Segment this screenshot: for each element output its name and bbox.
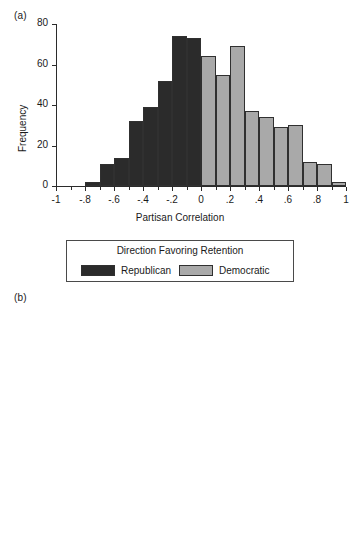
panel-a-x-tick: [317, 187, 318, 191]
panel-a-x-tick-label: .6: [273, 194, 303, 205]
histogram-bar: [129, 121, 144, 186]
panel-a-x-tick-label: -1: [41, 194, 71, 205]
legend-swatch-democratic: [179, 265, 213, 276]
panel-a-x-tick-label: 0: [186, 194, 216, 205]
panel-a-y-tick-label: 60: [20, 58, 48, 69]
panel-a: (a) Frequency 020406080-1-.8-.6-.4-.20.2…: [0, 0, 360, 236]
figure-root: (a) Frequency 020406080-1-.8-.6-.4-.20.2…: [0, 0, 360, 549]
histogram-bar: [216, 75, 231, 186]
panel-a-x-tick-label: -.4: [128, 194, 158, 205]
panel-a-y-axis-line: [56, 24, 57, 186]
panel-a-x-minor-tick: [129, 187, 130, 190]
panel-a-x-tick-label: .8: [302, 194, 332, 205]
panel-a-plot-area: 020406080-1-.8-.6-.4-.20.2.4.6.81: [56, 24, 346, 186]
histogram-bar: [274, 127, 289, 186]
panel-a-y-tick: [52, 105, 56, 106]
panel-a-x-tick: [259, 187, 260, 191]
panel-a-x-tick-label: .2: [215, 194, 245, 205]
panel-a-x-tick: [143, 187, 144, 191]
panel-a-x-tick: [201, 187, 202, 191]
histogram-bar: [201, 56, 216, 186]
histogram-bar: [100, 164, 115, 186]
panel-a-y-tick-label: 0: [20, 179, 48, 190]
panel-a-x-tick-label: -.8: [70, 194, 100, 205]
panel-a-x-tick: [85, 187, 86, 191]
panel-a-x-tick: [288, 187, 289, 191]
histogram-bar: [332, 182, 347, 186]
panel-b-tag: (b): [14, 292, 27, 303]
panel-a-x-tick: [114, 187, 115, 191]
histogram-bar: [172, 36, 187, 186]
panel-a-y-tick-label: 40: [20, 98, 48, 109]
panel-a-x-tick: [56, 187, 57, 191]
panel-a-x-tick-label: -.2: [157, 194, 187, 205]
histogram-bar: [114, 158, 129, 186]
histogram-bar: [245, 111, 260, 186]
histogram-bar: [303, 162, 318, 186]
histogram-bar: [85, 182, 100, 186]
panel-a-y-tick-label: 20: [20, 139, 48, 150]
panel-a-y-tick: [52, 24, 56, 25]
panel-a-x-tick: [346, 187, 347, 191]
panel-a-x-minor-tick: [274, 187, 275, 190]
panel-a-x-tick-label: -.6: [99, 194, 129, 205]
panel-a-x-minor-tick: [71, 187, 72, 190]
panel-a-x-minor-tick: [158, 187, 159, 190]
panel-a-x-minor-tick: [303, 187, 304, 190]
panel-a-x-tick: [172, 187, 173, 191]
panel-a-x-minor-tick: [216, 187, 217, 190]
panel-a-y-tick: [52, 146, 56, 147]
histogram-bar: [317, 164, 332, 186]
histogram-bar: [288, 125, 303, 186]
legend-box: Direction Favoring Retention Republican …: [66, 240, 294, 282]
panel-a-y-tick: [52, 65, 56, 66]
panel-a-x-minor-tick: [245, 187, 246, 190]
histogram-bar: [230, 46, 245, 186]
histogram-bar: [143, 107, 158, 186]
panel-a-x-tick: [230, 187, 231, 191]
legend-item-democratic: Democratic: [179, 263, 270, 277]
panel-a-y-tick-label: 80: [20, 17, 48, 28]
legend-label-republican: Republican: [121, 265, 171, 276]
panel-a-x-minor-tick: [332, 187, 333, 190]
legend-row: Republican Democratic: [67, 263, 293, 279]
panel-a-x-minor-tick: [187, 187, 188, 190]
panel-a-x-axis-label: Partisan Correlation: [0, 212, 360, 223]
panel-b: (b) Frequency 0204060800.1.2.3.4.5.6.7.8…: [0, 288, 360, 549]
histogram-bar: [187, 38, 202, 186]
histogram-bar: [259, 117, 274, 186]
legend-title: Direction Favoring Retention: [67, 245, 293, 256]
legend-swatch-republican: [81, 265, 115, 276]
panel-a-x-tick-label: .4: [244, 194, 274, 205]
panel-a-x-minor-tick: [100, 187, 101, 190]
legend-item-republican: Republican: [81, 263, 171, 277]
panel-a-x-tick-label: 1: [331, 194, 360, 205]
histogram-bar: [158, 81, 173, 186]
legend-label-democratic: Democratic: [219, 265, 270, 276]
